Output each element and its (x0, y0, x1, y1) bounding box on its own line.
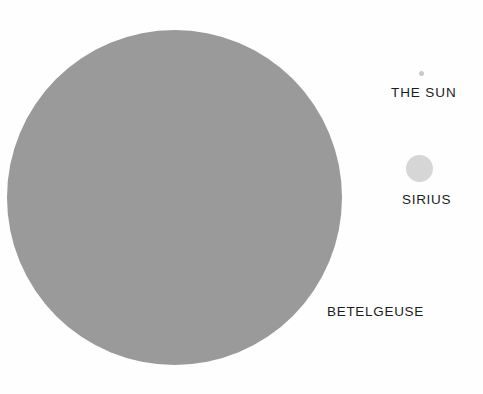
betelgeuse-star-circle (7, 30, 342, 365)
betelgeuse-label: BETELGEUSE (327, 305, 424, 319)
star-size-comparison-figure: THE SUN SIRIUS BETELGEUSE (0, 0, 483, 394)
sun-label: THE SUN (391, 86, 457, 100)
sun-star-dot (419, 71, 424, 76)
sirius-label: SIRIUS (402, 193, 451, 207)
sirius-star-circle (406, 155, 433, 182)
